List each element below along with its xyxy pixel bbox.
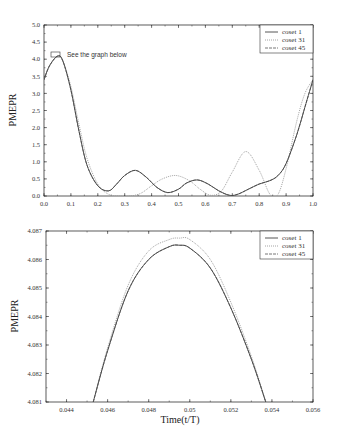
top-curves — [44, 56, 313, 198]
series-coset-1-line — [44, 56, 313, 196]
x-tick-label: 0.048 — [141, 406, 156, 413]
top-y-axis-label: PMEPR — [7, 93, 18, 126]
x-tick-label: 0.7 — [228, 200, 237, 207]
legend-label-coset-31: coset 31 — [282, 242, 306, 250]
bottom-legend: coset 1 coset 31 coset 45 — [260, 231, 313, 259]
y-tick-label: 4.0 — [32, 55, 40, 62]
y-tick-label: 4.082 — [27, 370, 42, 377]
bottom-y-axis-label: PMEPR — [9, 299, 20, 332]
bottom-curves — [93, 237, 266, 402]
x-tick-label: 0.4 — [148, 200, 157, 207]
legend-label-coset-45: coset 45 — [282, 250, 306, 258]
y-tick-label: 2.5 — [32, 107, 40, 114]
legend-label-coset-31: coset 31 — [282, 36, 306, 44]
y-tick-label: 1.0 — [32, 158, 40, 165]
figure: 0.00.10.20.30.40.50.60.70.80.91.00.00.51… — [0, 0, 338, 447]
x-tick-label: 0.1 — [67, 200, 75, 207]
y-tick-label: 4.087 — [27, 227, 42, 234]
y-tick-label: 3.5 — [32, 73, 40, 80]
y-tick-label: 1.5 — [32, 141, 40, 148]
series-coset-1-line — [93, 245, 266, 402]
y-tick-label: 4.085 — [27, 284, 42, 291]
y-tick-label: 4.083 — [27, 341, 42, 348]
y-tick-label: 0.5 — [32, 175, 40, 182]
x-tick-label: 0.054 — [265, 406, 280, 413]
series-coset-45-line — [44, 56, 313, 196]
x-tick-label: 0.052 — [224, 406, 239, 413]
y-tick-label: 4.084 — [27, 313, 42, 320]
series-coset-31-line — [44, 56, 313, 198]
y-tick-label: 5.0 — [32, 21, 40, 28]
legend-label-coset-45: coset 45 — [282, 44, 306, 52]
legend-label-coset-1: coset 1 — [282, 234, 302, 242]
top-chart: 0.00.10.20.30.40.50.60.70.80.91.00.00.51… — [7, 21, 317, 207]
bottom-x-axis-label: Time(t/T) — [160, 414, 199, 426]
series-coset-45-line — [93, 245, 266, 402]
y-tick-label: 4.5 — [32, 38, 40, 45]
x-tick-label: 1.0 — [309, 200, 317, 207]
x-tick-label: 0.05 — [184, 406, 195, 413]
bottom-chart: 0.0440.0460.0480.050.0520.0540.0564.0814… — [9, 227, 321, 426]
top-legend: coset 1 coset 31 coset 45 — [260, 25, 313, 53]
y-tick-label: 0.0 — [32, 192, 40, 199]
x-tick-label: 0.046 — [100, 406, 115, 413]
y-tick-label: 3.0 — [32, 90, 40, 97]
x-tick-label: 0.8 — [255, 200, 263, 207]
y-tick-label: 2.0 — [32, 124, 40, 131]
x-tick-label: 0.044 — [59, 406, 74, 413]
x-tick-label: 0.9 — [282, 200, 290, 207]
legend-label-coset-1: coset 1 — [282, 28, 302, 36]
y-tick-label: 4.086 — [27, 256, 42, 263]
annotation-text: See the graph below — [67, 51, 127, 59]
y-tick-label: 4.081 — [27, 398, 42, 405]
x-tick-label: 0.3 — [121, 200, 129, 207]
x-tick-label: 0.5 — [174, 200, 182, 207]
x-tick-label: 0.0 — [40, 200, 48, 207]
x-tick-label: 0.2 — [94, 200, 102, 207]
x-tick-label: 0.056 — [306, 406, 321, 413]
series-coset-31-line — [93, 237, 266, 402]
x-tick-label: 0.6 — [201, 200, 210, 207]
